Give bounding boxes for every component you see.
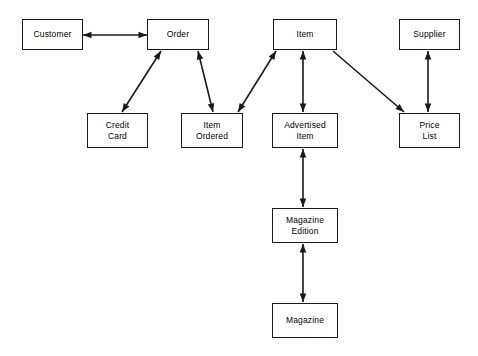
entity-box-magazine_edition[interactable]: Magazine Edition [272,208,338,243]
arrowhead-end-icon [300,199,307,208]
entity-box-item_ordered[interactable]: Item Ordered [181,113,243,148]
entity-box-advertised_item[interactable]: Advertised Item [272,113,338,148]
entity-label-supplier: Supplier [411,29,447,40]
entity-label-price_list: Price List [417,120,441,141]
entity-box-supplier[interactable]: Supplier [399,19,460,50]
arrowhead-end-icon [139,32,148,39]
arrowhead-end-icon [300,104,307,113]
arrowhead-start-icon [300,149,307,158]
edge-line [238,51,276,112]
arrowhead-start-icon [269,51,276,60]
arrowhead-start-icon [300,244,307,253]
entity-label-item_ordered: Item Ordered [194,120,230,141]
entity-box-price_list[interactable]: Price List [399,113,460,148]
arrowhead-start-icon [300,51,307,60]
arrowhead-start-icon [154,51,161,60]
arrowhead-end-icon [208,103,214,112]
edge-line [122,51,161,112]
arrowhead-end-icon [425,104,432,113]
arrowhead-end-icon [238,103,245,112]
arrowhead-start-icon [425,51,432,60]
entity-label-credit_card: Credit Card [104,120,132,141]
entity-label-customer: Customer [31,29,73,40]
edge-advertised-item-magazine-edition [300,149,307,207]
entity-label-magazine: Magazine [284,315,326,326]
edge-magazine-edition-magazine [300,244,307,302]
entity-label-item: Item [294,29,315,40]
edge-item-price-list [333,51,404,112]
edge-supplier-price-list [425,51,432,112]
edge-item-item-ordered [238,51,276,112]
edge-order-item-ordered [197,51,214,112]
arrowhead-start-icon [83,32,92,39]
arrowhead-end-icon [300,294,307,303]
edge-order-credit-card [122,51,161,112]
edge-line [198,51,213,112]
entity-box-credit_card[interactable]: Credit Card [87,113,148,148]
arrowhead-end-icon [395,104,404,112]
entity-box-customer[interactable]: Customer [22,19,83,50]
entity-label-advertised_item: Advertised Item [282,120,328,141]
entity-box-magazine[interactable]: Magazine [272,303,338,338]
edge-item-advertised-item [300,51,307,112]
edge-customer-order [83,32,147,39]
entity-box-order[interactable]: Order [147,19,209,50]
entity-label-magazine_edition: Magazine Edition [284,215,326,236]
entity-box-item[interactable]: Item [273,19,337,50]
arrowhead-start-icon [197,51,203,60]
entity-label-order: Order [165,29,191,40]
edge-layer [0,0,478,356]
diagram-canvas: CustomerOrderItemSupplierCredit CardItem… [0,0,478,356]
arrowhead-end-icon [122,103,129,112]
edge-line [333,51,404,112]
